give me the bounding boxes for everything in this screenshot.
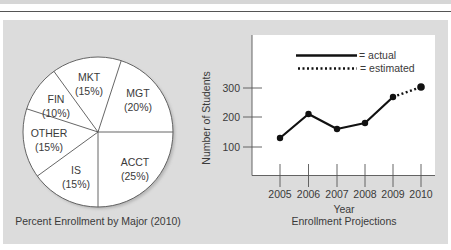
x-tick-label: 2008 — [353, 188, 377, 200]
slice-percent: (10%) — [42, 107, 70, 119]
y-axis-label: Number of Students — [200, 71, 212, 164]
pie-chart: ACCT (25%) IS (15%) OTHER (15%) FIN (10%… — [15, 57, 181, 227]
pie-caption: Percent Enrollment by Major (2010) — [15, 215, 181, 227]
point-2007 — [334, 126, 340, 132]
slice-percent: (15%) — [35, 141, 63, 153]
slice-percent: (25%) — [121, 170, 149, 182]
slice-label: MGT — [126, 87, 150, 99]
line-chart: 300 200 100 Number of Students 2005 2006… — [200, 35, 435, 227]
slice-label: IS — [71, 164, 81, 176]
legend-estimated-label: = estimated — [360, 62, 415, 74]
x-tick-label: 2005 — [268, 188, 292, 200]
x-tick-label: 2007 — [325, 188, 349, 200]
line-caption: Enrollment Projections — [291, 215, 396, 227]
slice-label: FIN — [48, 93, 65, 105]
point-2008 — [362, 120, 368, 126]
point-2009 — [390, 94, 396, 100]
slice-label: OTHER — [31, 127, 68, 139]
figure-svg: ACCT (25%) IS (15%) OTHER (15%) FIN (10%… — [0, 0, 451, 250]
slice-percent: (15%) — [75, 85, 103, 97]
point-2006 — [305, 111, 311, 117]
x-axis-label: Year — [333, 203, 355, 215]
y-tick-label: 300 — [222, 82, 240, 94]
x-tick-label: 2010 — [409, 188, 433, 200]
point-2005 — [277, 135, 283, 141]
point-2010 — [417, 83, 425, 91]
x-tick-label: 2009 — [381, 188, 405, 200]
legend-actual-label: = actual — [359, 49, 396, 61]
x-tick-label: 2006 — [297, 188, 321, 200]
slice-percent: (15%) — [62, 178, 90, 190]
slice-label: MKT — [78, 71, 101, 83]
y-tick-label: 100 — [222, 141, 240, 153]
y-tick-label: 200 — [222, 111, 240, 123]
slice-label: ACCT — [121, 156, 150, 168]
slice-percent: (20%) — [124, 101, 152, 113]
